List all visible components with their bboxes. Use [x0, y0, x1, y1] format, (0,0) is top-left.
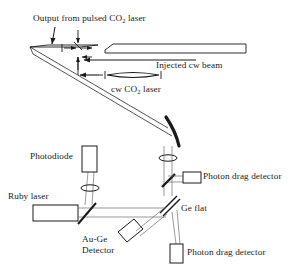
upper-cavity-group	[30, 27, 246, 136]
vertical-beam-upper	[164, 146, 172, 196]
beam-to-au-ge-detector	[136, 209, 167, 236]
ruby-beamsplitter	[78, 203, 96, 224]
vertical-beam-lower	[172, 210, 180, 244]
injection-cross-arrows	[62, 30, 92, 70]
label-output-pulsed-laser: Output from pulsed CO2 laser	[33, 13, 146, 24]
label-ge-flat: Ge flat	[181, 203, 207, 214]
beam-to-photodiode	[85, 172, 94, 205]
label-injected-cw-beam: Injected cw beam	[156, 60, 222, 71]
cw-laser-tube	[105, 44, 246, 53]
output-coupler-mirror	[30, 45, 98, 47]
label-cw-co2-laser: cw CO2 laser	[111, 84, 161, 95]
label-photodiode: Photodiode	[30, 151, 73, 162]
label-ruby-laser: Ruby laser	[8, 191, 49, 202]
label-au-ge-detector-line2: Detector	[82, 245, 114, 256]
label-photon-drag-detector-right: Photon drag detector	[203, 171, 282, 182]
lower-optics-group	[33, 117, 201, 263]
photodiode	[82, 146, 97, 172]
label-au-ge-detector-line1: Au-Ge	[82, 234, 114, 245]
photon-drag-detector-bottom	[170, 244, 183, 263]
ruby-laser	[33, 205, 78, 221]
optical-setup-diagram: Output from pulsed CO2 laser Injected cw…	[0, 0, 301, 268]
au-ge-detector	[118, 219, 143, 242]
photon-drag-detector-right	[183, 172, 201, 183]
diagram-canvas	[0, 0, 301, 268]
label-au-ge-detector: Au-Ge Detector	[82, 234, 114, 256]
steering-mirror	[166, 117, 179, 146]
label-photon-drag-detector-bottom: Photon drag detector	[187, 247, 266, 258]
collection-lens	[81, 185, 99, 191]
output-pointer-arrow	[52, 27, 55, 44]
focusing-lens-upper	[159, 155, 177, 161]
